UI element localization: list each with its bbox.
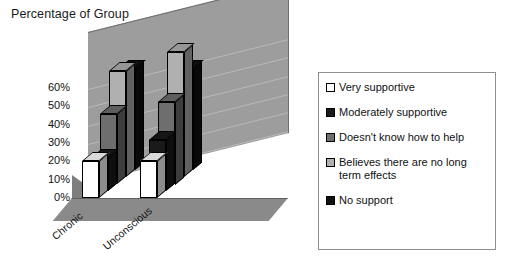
bar-side-face <box>157 154 166 198</box>
bar-series-group <box>0 18 300 233</box>
legend-item[interactable]: Believes there are no long term effects <box>326 156 491 182</box>
bar-side-face <box>193 62 202 170</box>
legend-item-label: No support <box>339 194 393 207</box>
chart-figure: Percentage of Group 60%50%40%30%20%10%0%… <box>0 0 508 271</box>
legend-swatch-icon <box>326 83 335 92</box>
legend-swatch-icon <box>326 158 335 167</box>
legend-item[interactable]: No support <box>326 194 491 207</box>
legend-item[interactable]: Moderately supportive <box>326 106 491 119</box>
bar-unconscious-series-0 <box>140 161 157 198</box>
bar-side-face <box>135 62 144 170</box>
bar-chronic-series-0 <box>82 161 99 198</box>
legend-item-label: Very supportive <box>339 81 415 94</box>
legend-item[interactable]: Doesn't know how to help <box>326 131 491 144</box>
bar-side-face <box>184 45 193 177</box>
legend-swatch-icon <box>326 196 335 205</box>
plot-area: 60%50%40%30%20%10%0% Chronic Unconscious <box>0 18 300 233</box>
bar-side-face <box>126 63 135 177</box>
legend-swatch-icon <box>326 133 335 142</box>
bar-side-face <box>175 94 184 184</box>
legend-item[interactable]: Very supportive <box>326 81 491 94</box>
bar-side-face <box>99 154 108 198</box>
bar-front-face <box>82 161 99 198</box>
bar-side-face <box>166 132 175 191</box>
legend-item-label: Doesn't know how to help <box>339 131 464 144</box>
legend-item-list: Very supportiveModerately supportiveDoes… <box>326 81 491 207</box>
bar-side-face <box>117 107 126 184</box>
legend-item-label: Believes there are no long term effects <box>339 156 491 182</box>
legend-item-label: Moderately supportive <box>339 106 447 119</box>
legend-swatch-icon <box>326 108 335 117</box>
bar-front-face <box>140 161 157 198</box>
chart-legend: Very supportiveModerately supportiveDoes… <box>318 72 496 250</box>
